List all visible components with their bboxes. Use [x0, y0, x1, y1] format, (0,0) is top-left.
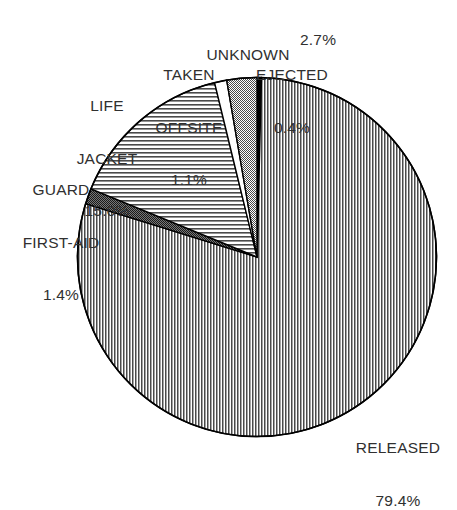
slice-label-released-value: 79.4%: [346, 492, 450, 510]
slice-label-taken-offsite-value: 1.1%: [146, 171, 232, 189]
slice-label-guard-first-aid-line2: FIRST-AID: [9, 234, 113, 252]
slice-label-released-text: RELEASED: [346, 439, 450, 457]
slice-label-taken-offsite-line2: OFFSITE: [146, 119, 232, 137]
slice-label-ejected-text: EJECTED: [246, 66, 338, 84]
slice-label-taken-offsite-line1: TAKEN: [146, 66, 232, 84]
slice-label-guard-first-aid-value: 1.4%: [9, 286, 113, 304]
slice-label-ejected: EJECTED 0.4%: [246, 31, 338, 171]
slice-label-taken-offsite: TAKEN OFFSITE 1.1%: [146, 31, 232, 224]
slice-label-guard-first-aid-line1: GUARD: [9, 181, 113, 199]
slice-label-released: RELEASED 79.4%: [346, 404, 450, 510]
slice-label-life-jacket-line1: LIFE: [66, 97, 148, 115]
slice-label-ejected-value: 0.4%: [246, 119, 338, 137]
slice-label-guard-first-aid: GUARD FIRST-AID 1.4%: [9, 146, 113, 339]
